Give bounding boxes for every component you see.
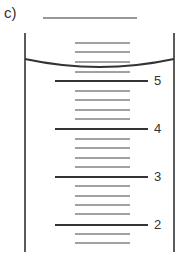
minor-graduation-ticks xyxy=(75,43,130,243)
major-graduation-ticks xyxy=(55,81,148,225)
tick-label: 5 xyxy=(154,74,161,87)
graduated-cylinder-figure: c) 5432 xyxy=(0,0,184,259)
tick-label: 2 xyxy=(154,218,161,231)
tick-label: 4 xyxy=(154,122,161,135)
tick-label: 3 xyxy=(154,170,161,183)
liquid-meniscus xyxy=(25,59,174,67)
